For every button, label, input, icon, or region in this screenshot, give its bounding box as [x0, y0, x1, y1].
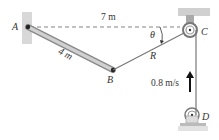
angle-label: θ — [150, 30, 155, 40]
label-d: D — [202, 112, 209, 122]
rope-bc — [113, 33, 184, 70]
label-c: C — [201, 27, 208, 37]
angle-arc — [160, 27, 162, 42]
label-a: A — [12, 22, 18, 32]
pin-a — [26, 25, 30, 29]
distance-label: 7 m — [101, 13, 116, 23]
rope-label: R — [150, 51, 156, 61]
ceiling-support-c — [178, 8, 210, 16]
ground-d — [178, 126, 208, 131]
velocity-label: 0.8 m/s — [151, 79, 179, 89]
label-b: B — [107, 75, 113, 85]
